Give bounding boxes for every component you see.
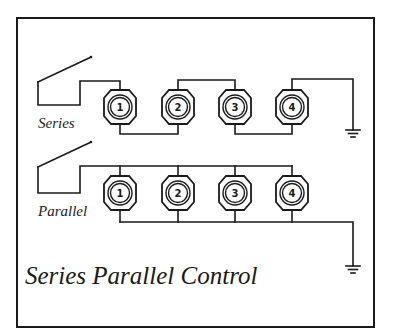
lamp-number: 2 bbox=[175, 102, 182, 113]
lamp-number: 3 bbox=[232, 102, 239, 113]
parallel-lamp-4: 4 bbox=[276, 176, 308, 210]
parallel-label: Parallel bbox=[37, 203, 87, 219]
lamp-number: 1 bbox=[117, 102, 124, 113]
parallel-switch-icon bbox=[38, 141, 92, 167]
series-lamp-4: 4 bbox=[276, 90, 308, 124]
lamp-number: 1 bbox=[117, 188, 124, 199]
parallel-circuit: 1 2 3 4 Parallel bbox=[37, 141, 360, 273]
parallel-ground-icon bbox=[346, 266, 360, 273]
parallel-lamp-2: 2 bbox=[162, 176, 194, 210]
parallel-bottom-bus bbox=[120, 222, 353, 266]
lamp-number: 3 bbox=[232, 188, 239, 199]
parallel-lamp-3: 3 bbox=[219, 176, 251, 210]
series-ground-icon bbox=[346, 130, 360, 137]
series-lamp-2: 2 bbox=[162, 90, 194, 124]
series-wire-2-3 bbox=[178, 80, 235, 90]
diagram-title: Series Parallel Control bbox=[25, 262, 257, 289]
series-lamp-3: 3 bbox=[219, 90, 251, 124]
lamp-number: 2 bbox=[175, 188, 182, 199]
parallel-lamp-1: 1 bbox=[104, 176, 136, 210]
series-parallel-diagram: 1 2 3 4 Series bbox=[0, 0, 393, 336]
lamp-number: 4 bbox=[289, 102, 296, 113]
lamp-number: 4 bbox=[289, 188, 296, 199]
series-circuit: 1 2 3 4 Series bbox=[38, 56, 360, 137]
series-switch-icon bbox=[38, 56, 92, 82]
series-label: Series bbox=[38, 115, 75, 131]
series-wire-3-4 bbox=[235, 124, 292, 134]
series-wire-1-2 bbox=[120, 124, 178, 134]
series-lamp-1: 1 bbox=[104, 90, 136, 124]
